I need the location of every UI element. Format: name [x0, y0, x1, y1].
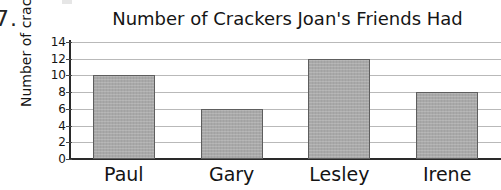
x-label-irene: Irene	[393, 161, 501, 187]
worksheet-page: 7. Number of Crackers Joan's Friends Had…	[0, 0, 501, 190]
x-axis-category-labels: PaulGaryLesleyIrene	[70, 161, 501, 189]
x-label-lesley: Lesley	[286, 161, 394, 187]
y-tick-mark-10	[66, 75, 72, 76]
y-tick-label-0: 0	[44, 153, 66, 165]
bar-lesley	[308, 59, 370, 159]
y-tick-label-12: 12	[44, 53, 66, 65]
y-tick-mark-6	[66, 109, 72, 110]
y-tick-mark-4	[66, 126, 72, 127]
y-tick-label-4: 4	[44, 120, 66, 132]
bar-chart-figure: Number of Crackers Joan's Friends Had Nu…	[0, 0, 501, 190]
bar-gary	[201, 109, 263, 159]
y-tick-label-8: 8	[44, 86, 66, 98]
y-tick-label-6: 6	[44, 103, 66, 115]
y-axis-title: Number of crackers	[17, 0, 35, 107]
y-tick-mark-12	[66, 59, 72, 60]
y-tick-mark-8	[66, 92, 72, 93]
bar-irene	[416, 92, 478, 159]
plot-area	[70, 42, 501, 159]
x-label-paul: Paul	[70, 161, 178, 187]
x-label-gary: Gary	[178, 161, 286, 187]
chart-title: Number of Crackers Joan's Friends Had	[80, 8, 495, 30]
gridline	[70, 59, 501, 60]
y-tick-label-2: 2	[44, 136, 66, 148]
y-axis-tick-labels: 14121086420	[44, 34, 66, 164]
y-tick-label-14: 14	[44, 36, 66, 48]
y-tick-mark-14	[66, 42, 72, 43]
y-tick-mark-0	[66, 159, 72, 160]
y-tick-label-10: 10	[44, 69, 66, 81]
y-tick-mark-2	[66, 142, 72, 143]
gridline	[70, 42, 501, 43]
bar-paul	[93, 75, 155, 159]
